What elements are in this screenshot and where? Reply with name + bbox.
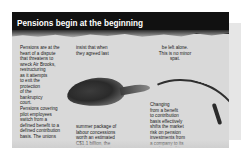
article-column-2-top: insist that when they agreed last <box>76 45 128 56</box>
shoe-illustration-icon <box>66 76 126 108</box>
article-column-3-top: be left alone. This is no minor spat. <box>150 45 200 62</box>
article-title: Pensions begin at the beginning <box>17 19 143 28</box>
clipping-bottom-edge <box>12 140 229 148</box>
article-column-1: Pensions are at the heart of a dispute t… <box>20 45 70 139</box>
newspaper-clipping: Pensions begin at the beginning Pensions… <box>12 12 229 148</box>
headline-torn-edge <box>12 30 229 38</box>
page-shadow <box>229 23 241 140</box>
